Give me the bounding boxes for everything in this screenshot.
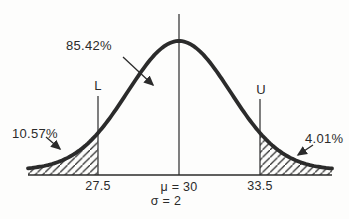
upper-marker-label: U [256,83,266,96]
left-percent-label: 10.57% [12,127,58,140]
lower-value-label: 27.5 [85,180,111,193]
lower-marker-label: L [94,79,102,92]
mu-label: μ = 30 [160,181,197,194]
upper-value-label: 33.5 [247,180,273,193]
right-percent-label: 4.01% [305,132,343,145]
normal-distribution-figure: 85.42% 10.57% 4.01% L U 27.5 μ = 30 σ = … [0,0,349,219]
right-annotation-arrow [298,145,313,155]
middle-percent-label: 85.42% [66,39,112,52]
bell-curve [28,41,332,169]
sigma-label: σ = 2 [151,195,181,208]
